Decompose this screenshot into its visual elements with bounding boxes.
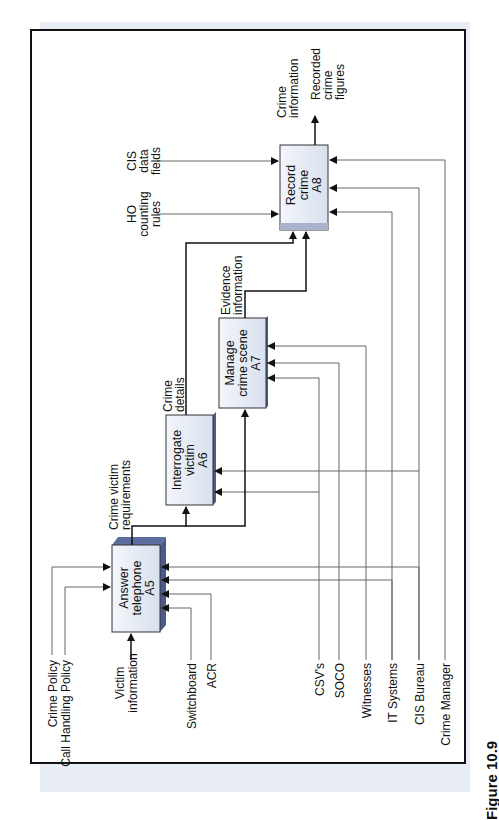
svg-text:Record: Record	[284, 165, 298, 205]
svg-text:A7: A7	[249, 355, 263, 370]
svg-text:Interrogate: Interrogate	[170, 430, 184, 491]
svg-text:ACR: ACR	[205, 663, 219, 689]
svg-text:victim: victim	[183, 444, 197, 476]
svg-text:A8: A8	[310, 177, 324, 192]
svg-text:IT Systems: IT Systems	[386, 663, 400, 723]
label-crime-policy: Crime Policy	[46, 660, 60, 727]
label-acr: ACR	[205, 663, 219, 689]
label-crime-details: Crime details	[161, 377, 187, 412]
svg-text:SOCO: SOCO	[333, 663, 347, 698]
svg-text:Crime Policy: Crime Policy	[46, 660, 60, 727]
figure-caption: Figure 10.9	[483, 741, 499, 820]
svg-text:information: information	[287, 59, 301, 118]
svg-text:Figure 10.9: Figure 10.9	[483, 741, 499, 820]
svg-text:Call Handling Policy: Call Handling Policy	[59, 660, 73, 767]
svg-text:telephone: telephone	[130, 560, 144, 615]
svg-text:Crime Manager: Crime Manager	[439, 663, 453, 746]
label-crime-victim-requirements: Crime victim requirements	[107, 460, 133, 530]
label-witnesses: Witnesses	[360, 663, 374, 718]
label-cis-bureau: CIS Bureau	[413, 663, 427, 725]
label-cis-data-fields: CIS data fields	[125, 147, 163, 175]
svg-text:information: information	[126, 653, 140, 712]
label-soco: SOCO	[333, 663, 347, 698]
svg-text:information: information	[231, 256, 245, 315]
svg-text:crime scene: crime scene	[236, 329, 250, 396]
svg-text:requirements: requirements	[119, 460, 133, 530]
svg-text:A5: A5	[143, 580, 157, 595]
label-csvs: CSV's	[313, 663, 327, 696]
svg-text:Answer: Answer	[117, 567, 131, 609]
svg-text:rules: rules	[149, 201, 163, 227]
svg-text:CIS Bureau: CIS Bureau	[413, 663, 427, 725]
svg-text:figures: figures	[333, 64, 347, 100]
svg-text:Manage: Manage	[223, 340, 237, 385]
label-switchboard: Switchboard	[185, 663, 199, 729]
svg-text:Witnesses: Witnesses	[360, 663, 374, 718]
svg-text:crime: crime	[297, 170, 311, 201]
svg-text:Switchboard: Switchboard	[185, 663, 199, 729]
svg-text:A6: A6	[196, 452, 210, 467]
svg-text:fields: fields	[149, 147, 163, 175]
svg-text:details: details	[173, 377, 187, 412]
idef0-diagram: Answer telephone A5 Interrogate victim A…	[0, 0, 499, 820]
svg-text:Victim: Victim	[113, 667, 127, 699]
label-it-systems: IT Systems	[386, 663, 400, 723]
svg-text:CSV's: CSV's	[313, 663, 327, 696]
label-crime-manager: Crime Manager	[439, 663, 453, 746]
label-call-handling-policy: Call Handling Policy	[59, 660, 73, 767]
